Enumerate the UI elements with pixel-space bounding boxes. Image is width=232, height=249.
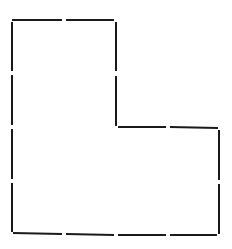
outline-segment <box>13 233 62 234</box>
diagram-canvas <box>0 0 232 249</box>
l-shape-outline <box>0 0 232 249</box>
outline-segment <box>66 234 114 235</box>
outline-segment <box>170 127 218 128</box>
